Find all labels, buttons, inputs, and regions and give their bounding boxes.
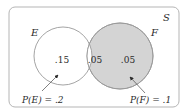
set-e-label: E [31, 27, 38, 38]
prob-e-label: P(E) = .2 [22, 95, 64, 105]
intersection-value: .05 [88, 55, 102, 65]
e-only-value: .15 [55, 55, 69, 65]
set-f-label: F [151, 27, 158, 38]
prob-f-label: P(F) = .1 [130, 95, 171, 105]
f-only-value: .05 [121, 55, 135, 65]
universe-label: S [163, 12, 170, 23]
